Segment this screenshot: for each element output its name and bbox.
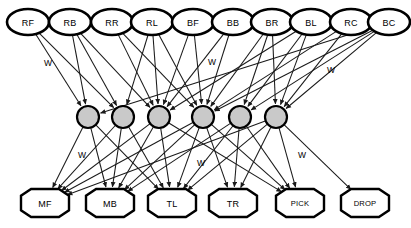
edge-BB-H4 xyxy=(207,35,229,104)
input-node-label-bl: BL xyxy=(305,18,316,28)
hidden-node-6[interactable] xyxy=(265,106,287,128)
edges-input-to-hidden xyxy=(36,28,376,113)
edge-H2-MB xyxy=(112,128,121,187)
hidden-node-2[interactable] xyxy=(112,106,134,128)
edge-H6-MF xyxy=(67,121,265,195)
weight-label-1: W xyxy=(44,58,52,68)
edge-H4-PICK xyxy=(212,125,285,190)
edge-H6-DROP xyxy=(284,125,351,189)
weight-label-5: W xyxy=(197,158,205,168)
output-node-label-mb: MB xyxy=(103,199,117,209)
input-node-label-bc: BC xyxy=(383,18,396,28)
output-node-label-tl: TL xyxy=(167,199,178,209)
output-layer: MFMBTLTRPICKDROP xyxy=(21,189,389,217)
edge-H6-PICK xyxy=(279,128,295,187)
neural-network-diagram: RFRBRRRLBFBBBRBLRCBC MFMBTLTRPICKDROP WW… xyxy=(0,0,411,228)
edge-RL-H4 xyxy=(159,35,197,106)
edge-BF-H3 xyxy=(163,35,188,104)
output-node-label-mf: MF xyxy=(38,199,52,209)
weight-label-2: W xyxy=(208,57,216,67)
edge-RR-H3 xyxy=(118,35,153,105)
edge-RB-H3 xyxy=(81,34,150,108)
edge-H5-TR xyxy=(234,128,239,186)
input-node-label-rl: RL xyxy=(146,18,158,28)
edge-RF-H2 xyxy=(39,33,113,107)
network-canvas: RFRBRRRLBFBBBRBLRCBC MFMBTLTRPICKDROP WW… xyxy=(0,0,411,228)
weight-label-6: W xyxy=(298,150,306,160)
output-node-label-drop: DROP xyxy=(354,199,377,208)
input-node-label-rr: RR xyxy=(105,18,119,28)
edge-RR-H4 xyxy=(123,34,194,108)
input-node-label-rc: RC xyxy=(344,18,358,28)
edge-H1-MB xyxy=(91,128,106,187)
weight-label-4: W xyxy=(78,150,86,160)
input-layer: RFRBRRRLBFBBBRBLRCBC xyxy=(7,9,410,35)
edge-BC-H4 xyxy=(215,31,373,111)
edge-H6-TR xyxy=(241,127,271,187)
output-node-label-pick: PICK xyxy=(291,199,310,208)
hidden-node-4[interactable] xyxy=(192,106,214,128)
edge-BC-H5 xyxy=(251,32,374,110)
input-node-label-rf: RF xyxy=(22,18,35,28)
hidden-node-1[interactable] xyxy=(77,106,99,128)
edge-RB-H2 xyxy=(77,35,116,106)
hidden-node-5[interactable] xyxy=(229,106,251,128)
input-node-label-bb: BB xyxy=(227,18,239,28)
hidden-node-3[interactable] xyxy=(148,106,170,128)
edge-H2-MF xyxy=(58,126,115,189)
input-node-label-bf: BF xyxy=(187,18,199,28)
edge-H5-MB xyxy=(128,123,231,191)
input-node-label-rb: RB xyxy=(64,18,77,28)
weight-label-3: W xyxy=(327,65,335,75)
output-node-label-tr: TR xyxy=(227,199,240,209)
input-node-label-br: BR xyxy=(266,18,279,28)
